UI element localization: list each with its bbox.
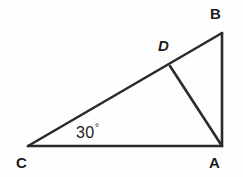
vertex-label-d: D xyxy=(158,38,169,53)
geometry-figure: B A C D 30° xyxy=(0,0,243,177)
angle-value: 30 xyxy=(76,124,94,141)
degree-symbol: ° xyxy=(95,122,99,133)
angle-measure-label: 30° xyxy=(76,124,99,141)
segment-DA xyxy=(170,66,222,146)
vertex-label-b: B xyxy=(210,6,221,21)
triangle-diagram-svg xyxy=(0,0,243,177)
segment-CB xyxy=(28,33,222,146)
vertex-label-a: A xyxy=(209,155,220,170)
vertex-label-c: C xyxy=(16,155,27,170)
